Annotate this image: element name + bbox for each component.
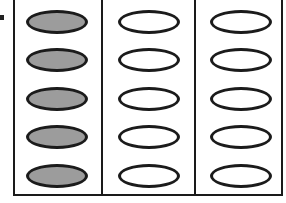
oval-col1-row5 [26, 164, 88, 188]
oval-col3-row1 [210, 10, 272, 34]
oval-col2-row3 [118, 87, 180, 111]
oval-col3-row3 [210, 87, 272, 111]
oval-col3-row5 [210, 164, 272, 188]
oval-col3-row2 [210, 48, 272, 72]
column-divider-1 [101, 0, 103, 196]
oval-col3-row4 [210, 125, 272, 149]
oval-col1-row4 [26, 125, 88, 149]
oval-col2-row2 [118, 48, 180, 72]
oval-col2-row1 [118, 10, 180, 34]
margin-mark [0, 15, 4, 20]
column-divider-2 [194, 0, 196, 196]
oval-col1-row2 [26, 48, 88, 72]
oval-col2-row5 [118, 164, 180, 188]
oval-col1-row1 [26, 10, 88, 34]
oval-col2-row4 [118, 125, 180, 149]
oval-col1-row3 [26, 87, 88, 111]
